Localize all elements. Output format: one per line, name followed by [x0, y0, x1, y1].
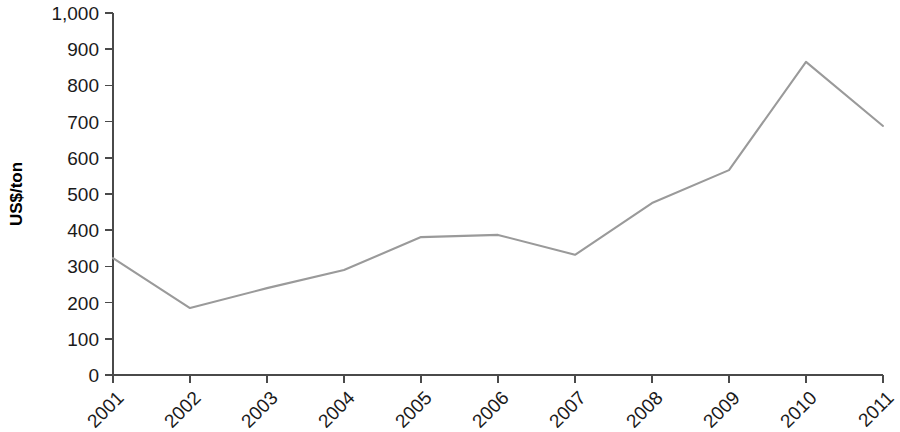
x-axis-tick-label: 2006 [468, 387, 513, 432]
y-axis-tick-label: 400 [67, 220, 99, 241]
x-axis: 2001200220032004200520062007200820092010… [83, 375, 898, 432]
y-axis-tick-labels: 01002003004005006007008009001,000 [51, 3, 99, 386]
x-axis-tick-label: 2004 [314, 387, 359, 432]
y-axis-tick-label: 500 [67, 184, 99, 205]
data-line-price [113, 62, 883, 308]
chart-canvas: 01002003004005006007008009001,000 200120… [0, 0, 900, 432]
x-axis-tick-label: 2007 [545, 387, 590, 432]
x-axis-tick-label: 2003 [237, 387, 282, 432]
y-axis-ticks [105, 13, 113, 375]
y-axis-tick-label: 800 [67, 75, 99, 96]
x-axis-tick-label: 2009 [699, 387, 744, 432]
x-axis-tick-label: 2002 [160, 387, 205, 432]
y-axis-tick-label: 300 [67, 256, 99, 277]
x-axis-tick-labels: 2001200220032004200520062007200820092010… [83, 387, 898, 432]
y-axis-tick-label: 200 [67, 293, 99, 314]
x-axis-ticks [113, 375, 883, 383]
y-axis-tick-label: 700 [67, 112, 99, 133]
x-axis-tick-label: 2011 [854, 387, 898, 431]
y-axis-tick-label: 900 [67, 39, 99, 60]
x-axis-tick-label: 2005 [391, 387, 436, 432]
y-axis-tick-label: 600 [67, 148, 99, 169]
y-axis-tick-label: 100 [67, 329, 99, 350]
y-axis-title: US$/ton [7, 162, 26, 226]
y-axis-tick-label: 1,000 [51, 3, 99, 24]
x-axis-tick-label: 2001 [83, 387, 128, 432]
y-axis: 01002003004005006007008009001,000 [51, 3, 113, 386]
data-series-group [113, 62, 883, 308]
y-axis-tick-label: 0 [88, 365, 99, 386]
x-axis-tick-label: 2010 [776, 387, 821, 432]
x-axis-tick-label: 2008 [622, 387, 667, 432]
line-chart: 01002003004005006007008009001,000 200120… [0, 0, 900, 432]
